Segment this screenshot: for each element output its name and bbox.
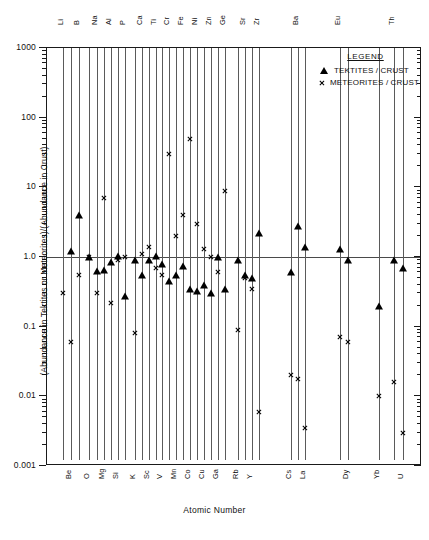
tektite-data-point — [152, 252, 160, 259]
plot-area — [46, 47, 421, 465]
meteorite-data-point — [94, 290, 100, 296]
y-tick-minor-right — [417, 214, 421, 215]
tektite-data-point — [287, 269, 295, 276]
element-label-fe: Fe — [176, 16, 185, 25]
element-stem — [259, 48, 260, 460]
y-tick-minor-right — [417, 329, 421, 330]
element-label-ge: Ge — [218, 15, 227, 25]
meteorite-data-point — [76, 272, 82, 278]
legend: LEGEND TEKTITES / CRUST METEORITES / CRU… — [313, 48, 417, 95]
meteorite-data-point — [173, 233, 179, 239]
y-tick-major-right — [414, 326, 421, 327]
legend-title: LEGEND — [317, 52, 414, 61]
tektite-data-point — [214, 254, 222, 261]
element-label-be: Be — [64, 470, 73, 479]
y-tick-minor-right — [417, 284, 421, 285]
meteorite-data-point — [345, 339, 351, 345]
element-stem — [291, 48, 292, 460]
tektite-data-point — [121, 292, 129, 299]
y-tick-minor-right — [417, 54, 421, 55]
element-label-yb: Yb — [372, 470, 381, 479]
y-tick-minor-right — [417, 132, 421, 133]
tektite-data-point — [248, 274, 256, 281]
element-stem — [238, 48, 239, 460]
element-label-ga: Ga — [211, 469, 220, 479]
y-tick-minor-right — [417, 123, 421, 124]
y-tick-minor-right — [417, 292, 421, 293]
tektite-data-point — [390, 257, 398, 264]
meteorite-data-point — [400, 430, 406, 436]
y-tick-minor-right — [417, 259, 421, 260]
figure-root: 1000100101.00.10.010.001 LiBeBONaMgAlSiP… — [0, 0, 429, 540]
meteorite-data-point — [249, 286, 255, 292]
y-tick-major — [39, 465, 46, 466]
y-tick-minor-right — [417, 58, 421, 59]
y-tick-major-right — [414, 465, 421, 466]
y-tick-minor-right — [417, 336, 421, 337]
tektite-data-point — [67, 248, 75, 255]
element-label-cs: Cs — [284, 470, 293, 479]
element-stem — [252, 48, 253, 460]
y-tick-label: 1.0 — [0, 251, 36, 261]
element-label-zn: Zn — [204, 16, 213, 25]
element-label-dy: Dy — [341, 470, 350, 479]
meteorite-data-point — [302, 425, 308, 431]
element-label-y: Y — [245, 474, 254, 479]
y-tick-label: 0.01 — [0, 390, 36, 400]
tektite-data-point — [255, 230, 263, 237]
y-tick-minor-right — [417, 263, 421, 264]
element-label-th: Th — [387, 16, 396, 25]
meteorite-data-point — [376, 393, 382, 399]
meteorite-data-point — [60, 290, 66, 296]
tektite-data-point — [75, 212, 83, 219]
element-stem — [169, 48, 170, 460]
tektite-data-point — [294, 222, 302, 229]
y-tick-label: 0.001 — [0, 460, 36, 470]
legend-label-meteorites: METEORITES / CRUST — [330, 78, 419, 87]
element-label-b: B — [72, 20, 81, 25]
meteorite-data-point — [166, 151, 172, 157]
element-label-ti: Ti — [149, 19, 158, 25]
y-tick-minor-right — [417, 347, 421, 348]
meteorite-data-point — [235, 327, 241, 333]
legend-row-meteorites: METEORITES / CRUST — [317, 78, 414, 87]
y-tick-major-right — [414, 117, 421, 118]
meteorite-data-point — [187, 136, 193, 142]
tektite-data-point — [172, 272, 180, 279]
y-tick-minor-right — [417, 190, 421, 191]
y-tick-minor-right — [417, 423, 421, 424]
y-tick-minor — [42, 423, 46, 424]
y-tick-minor-right — [417, 341, 421, 342]
tektite-data-point — [301, 243, 309, 250]
meteorite-data-point — [122, 254, 128, 260]
legend-row-tektites: TEKTITES / CRUST — [317, 66, 414, 75]
element-stem — [348, 48, 349, 460]
y-tick-minor-right — [417, 197, 421, 198]
tektite-data-point — [158, 260, 166, 267]
element-stem — [298, 48, 299, 460]
y-tick-minor — [42, 416, 46, 417]
meteorite-data-point — [288, 372, 294, 378]
element-label-zr: Zr — [252, 18, 261, 25]
y-tick-minor — [42, 62, 46, 63]
element-stem — [305, 48, 306, 460]
element-label-mn: Mn — [169, 469, 178, 479]
tektite-data-point — [165, 278, 173, 285]
tektite-data-point — [131, 257, 139, 264]
y-tick-minor-right — [417, 75, 421, 76]
element-stem — [176, 48, 177, 460]
y-tick-minor — [42, 58, 46, 59]
tektite-data-point — [200, 281, 208, 288]
meteorite-data-point — [180, 212, 186, 218]
element-stem — [190, 48, 191, 460]
element-label-ca: Ca — [135, 15, 144, 25]
element-label-la: La — [298, 471, 307, 479]
x-marker-icon — [319, 80, 325, 86]
element-label-co: Co — [183, 469, 192, 479]
y-tick-minor-right — [417, 416, 421, 417]
element-label-v: V — [155, 474, 164, 479]
element-stem — [149, 48, 150, 460]
element-label-ni: Ni — [190, 18, 199, 25]
y-tick-minor-right — [417, 235, 421, 236]
y-tick-minor — [42, 68, 46, 69]
